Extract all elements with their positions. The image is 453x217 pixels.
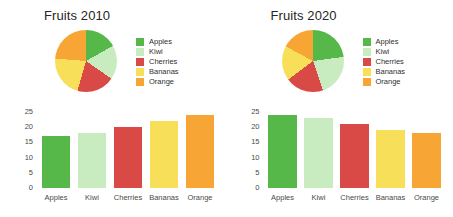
legend-swatch-icon — [136, 68, 144, 76]
legend-item-label: Kiwi — [376, 47, 390, 57]
legend-2020: ApplesKiwiCherriesBananasOrange — [363, 37, 406, 87]
legend-item-apples-2010: Apples — [136, 37, 179, 47]
x-axis-labels-2010: ApplesKiwiCherriesBananasOrange — [38, 192, 218, 204]
y-tick-label-2010: 15 — [25, 138, 33, 146]
legend-item-bananas-2020: Bananas — [363, 67, 406, 77]
y-tick-label-2020: 25 — [251, 108, 259, 116]
legend-item-kiwi-2010: Kiwi — [136, 47, 179, 57]
bar-bananas-2020 — [376, 130, 404, 188]
bar-cherries-2010 — [114, 127, 142, 188]
legend-item-cherries-2010: Cherries — [136, 57, 179, 67]
legend-item-label: Bananas — [376, 67, 406, 77]
legend-item-label: Bananas — [149, 67, 179, 77]
y-tick-label-2020: 20 — [251, 123, 259, 131]
y-tick-label-2010: 10 — [25, 154, 33, 162]
pie-chart-2010-block: ApplesKiwiCherriesBananasOrange — [0, 30, 227, 100]
bar-chart-2020-block: 2520151050 ApplesKiwiCherriesBananasOran… — [227, 112, 453, 212]
legend-swatch-icon — [136, 38, 144, 46]
x-tick-label-2010: Kiwi — [74, 192, 110, 204]
x-axis-labels-2020: ApplesKiwiCherriesBananasOrange — [265, 192, 445, 204]
legend-item-bananas-2010: Bananas — [136, 67, 179, 77]
legend-item-cherries-2020: Cherries — [363, 57, 406, 67]
y-tick-label-2020: 5 — [255, 169, 259, 177]
bar-orange-2010 — [186, 115, 214, 188]
legend-item-label: Apples — [376, 37, 399, 47]
bar-kiwi-2010 — [78, 133, 106, 188]
y-tick-label-2020: 15 — [251, 138, 259, 146]
legend-swatch-icon — [136, 58, 144, 66]
bar-bananas-2010 — [150, 121, 178, 188]
bar-plot-2020 — [265, 112, 445, 188]
legend-swatch-icon — [363, 68, 371, 76]
legend-swatch-icon — [136, 78, 144, 86]
y-tick-label-2010: 25 — [25, 108, 33, 116]
bar-apples-2020 — [268, 115, 296, 188]
legend-item-label: Cherries — [149, 57, 177, 67]
legend-swatch-icon — [363, 58, 371, 66]
y-tick-label-2020: 0 — [255, 184, 259, 192]
pie-chart-2020-block: ApplesKiwiCherriesBananasOrange — [227, 30, 453, 100]
legend-2010: ApplesKiwiCherriesBananasOrange — [136, 37, 179, 87]
legend-swatch-icon — [363, 38, 371, 46]
x-tick-label-2020: Orange — [409, 192, 445, 204]
panel-fruits-2010: Fruits 2010 ApplesKiwiCherriesBananasOra… — [0, 0, 227, 217]
page-title-2020: Fruits 2020 — [271, 8, 337, 23]
legend-item-orange-2010: Orange — [136, 77, 179, 87]
x-tick-label-2020: Apples — [265, 192, 301, 204]
x-tick-label-2020: Kiwi — [301, 192, 337, 204]
legend-item-label: Kiwi — [149, 47, 163, 57]
x-tick-label-2020: Bananas — [373, 192, 409, 204]
x-tick-label-2020: Cherries — [337, 192, 373, 204]
x-tick-label-2010: Cherries — [110, 192, 146, 204]
legend-item-label: Orange — [149, 77, 174, 87]
legend-item-orange-2020: Orange — [363, 77, 406, 87]
legend-item-label: Apples — [149, 37, 172, 47]
x-tick-label-2010: Bananas — [146, 192, 182, 204]
legend-swatch-icon — [363, 78, 371, 86]
y-tick-label-2010: 0 — [29, 184, 33, 192]
bar-chart-2010-block: 2520151050 ApplesKiwiCherriesBananasOran… — [0, 112, 227, 212]
y-axis-2020: 2520151050 — [244, 112, 260, 188]
bar-apples-2010 — [42, 136, 70, 188]
panel-fruits-2020: Fruits 2020 ApplesKiwiCherriesBananasOra… — [227, 0, 453, 217]
bar-kiwi-2020 — [304, 118, 332, 188]
y-tick-label-2010: 20 — [25, 123, 33, 131]
bar-cherries-2020 — [340, 124, 368, 188]
fruits-dashboard: Fruits 2010 ApplesKiwiCherriesBananasOra… — [0, 0, 453, 217]
pie-chart-2020 — [282, 30, 344, 92]
legend-swatch-icon — [363, 48, 371, 56]
legend-item-label: Cherries — [376, 57, 404, 67]
x-tick-label-2010: Orange — [182, 192, 218, 204]
legend-item-label: Orange — [376, 77, 401, 87]
legend-item-apples-2020: Apples — [363, 37, 406, 47]
bar-orange-2020 — [412, 133, 440, 188]
page-title: Fruits 2010 — [44, 8, 110, 23]
y-axis-2010: 2520151050 — [17, 112, 33, 188]
y-tick-label-2010: 5 — [29, 169, 33, 177]
x-tick-label-2010: Apples — [38, 192, 74, 204]
y-tick-label-2020: 10 — [251, 154, 259, 162]
legend-swatch-icon — [136, 48, 144, 56]
pie-chart-2010 — [55, 30, 117, 92]
legend-item-kiwi-2020: Kiwi — [363, 47, 406, 57]
bar-plot-2010 — [38, 112, 218, 188]
